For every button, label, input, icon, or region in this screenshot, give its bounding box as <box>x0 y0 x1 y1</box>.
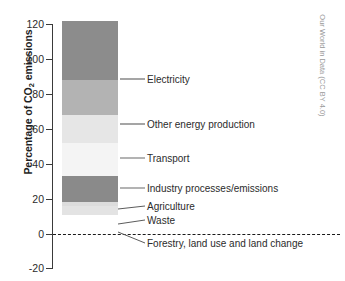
y-tick-mark-20 <box>46 199 52 200</box>
y-tick-mark-neg20 <box>46 268 52 269</box>
callout-label-other-energy-production: Other energy production <box>147 120 255 130</box>
callout-label-electricity: Electricity <box>147 75 190 85</box>
y-axis-spine <box>52 24 53 269</box>
bar-segment-industry-processes[interactable] <box>62 143 118 176</box>
y-tick-mark-120 <box>46 24 52 25</box>
y-axis-title-subscript: 2 <box>27 83 36 87</box>
y-tick-label-20: 20 <box>0 193 44 205</box>
y-tick-label-100: 100 <box>0 53 44 65</box>
callout-label-waste: Waste <box>147 216 175 226</box>
callout-label-industry-processes: Industry processes/emissions <box>147 184 278 194</box>
callout-label-agriculture: Agriculture <box>147 202 195 212</box>
y-tick-label-60: 60 <box>0 123 44 135</box>
y-tick-mark-100 <box>46 59 52 60</box>
callout-label-transport: Transport <box>147 154 189 164</box>
bar-segment-other-energy-production[interactable] <box>62 80 118 115</box>
y-tick-label-40: 40 <box>0 158 44 170</box>
chart-figure: Percentage of CO2 emissions 120 100 80 6… <box>0 0 345 281</box>
bar-segment-agriculture[interactable] <box>62 176 118 202</box>
y-tick-label-0: 0 <box>0 228 44 240</box>
y-tick-label-120: 120 <box>0 18 44 30</box>
y-tick-label-neg20: -20 <box>0 262 44 274</box>
zero-reference-line <box>53 234 340 235</box>
attribution-text: Our World in Data (CC BY 4.0) <box>318 6 327 126</box>
y-tick-label-80: 80 <box>0 88 44 100</box>
y-tick-mark-0 <box>46 234 52 235</box>
y-tick-mark-80 <box>46 94 52 95</box>
callout-label-forestry-land-use: Forestry, land use and land change <box>147 239 303 249</box>
bar-segment-forestry-land-use[interactable] <box>62 206 118 216</box>
bar-segment-transport[interactable] <box>62 115 118 143</box>
y-tick-mark-60 <box>46 129 52 130</box>
y-tick-mark-40 <box>46 164 52 165</box>
bar-segment-electricity[interactable] <box>62 21 118 80</box>
